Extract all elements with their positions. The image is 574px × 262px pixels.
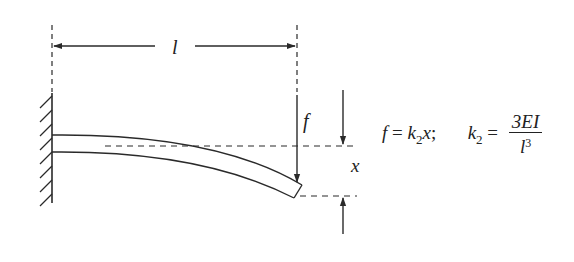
eq-equals-1: = (387, 122, 407, 143)
fraction-numerator: 3EI (509, 112, 542, 133)
eq-k: k (408, 122, 416, 143)
eq-separator: ; (431, 122, 436, 143)
deflection-label: x (350, 155, 360, 176)
stiffness-fraction: 3EIl3 (509, 112, 542, 157)
eq-equals-2: = (483, 122, 503, 143)
length-label: l (172, 36, 178, 58)
fixed-wall (40, 93, 52, 206)
deflected-beam (52, 135, 302, 198)
denominator-exponent: 3 (525, 136, 531, 150)
force-label: f (303, 110, 311, 133)
eq2-k: k (468, 122, 476, 143)
eq-x: x (422, 122, 430, 143)
fraction-denominator: l3 (509, 133, 542, 157)
stiffness-equation: f = k2x; k2 = 3EIl3 (382, 112, 542, 157)
